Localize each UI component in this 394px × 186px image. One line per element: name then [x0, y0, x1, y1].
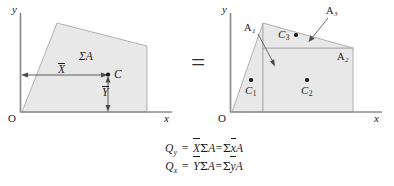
- centroid-label: C: [114, 69, 122, 81]
- area-a3-label: A3: [326, 6, 337, 18]
- qy-term1-sigma: Σ: [200, 141, 208, 155]
- left-diagram: y x O ΣA C X Y: [0, 0, 186, 138]
- xbar-symbol: X: [58, 63, 65, 76]
- a3-leader-line: [312, 18, 328, 38]
- qx-term1-sigma: Σ: [200, 159, 208, 173]
- area-a1-shape: [232, 23, 263, 112]
- right-diagram: y x O A1 A2 A3 C1 C2 C3: [212, 0, 394, 138]
- composite-area-shape: [22, 23, 147, 112]
- figure-page: y x O ΣA C X Y =: [0, 0, 394, 186]
- qx-term1-bar: Y: [193, 156, 199, 175]
- right-y-axis-label: y: [222, 4, 227, 15]
- qx-term2-bar: y: [231, 156, 236, 175]
- left-origin-label: O: [8, 113, 16, 124]
- qy-rhs: XΣA=ΣxA: [193, 142, 243, 154]
- centroid-c1-subscript: 1: [252, 89, 256, 98]
- area-a1-subscript: 1: [252, 27, 256, 35]
- left-diagram-canvas: [0, 0, 186, 138]
- qy-equals: =: [177, 139, 193, 157]
- centroid-c2-label: C2: [301, 85, 312, 98]
- xbar-label: X: [58, 63, 65, 76]
- area-a3-symbol: A: [326, 5, 334, 16]
- qx-rhs: YΣA=ΣyA: [193, 160, 242, 172]
- centroid-c3-point: [294, 33, 298, 37]
- right-x-axis-label: x: [374, 113, 379, 124]
- ybar-label: Y: [102, 86, 108, 99]
- equation-qx: Qx=YΣA=ΣyA: [0, 156, 394, 174]
- left-x-axis-label: x: [164, 113, 169, 124]
- area-a1-label: A1: [244, 23, 255, 35]
- area-a2-label: A2: [337, 52, 348, 64]
- centroid-c3-label: C3: [278, 29, 289, 42]
- equals-sign: =: [186, 50, 210, 76]
- total-area-label: ΣA: [79, 51, 93, 63]
- qy-term2-bar: x: [231, 138, 236, 157]
- area-a2-symbol: A: [337, 51, 345, 62]
- qx-equals: =: [177, 157, 193, 175]
- qy-symbol: Q: [165, 142, 173, 154]
- centroid-c1-label: C1: [245, 85, 256, 98]
- left-y-axis-label: y: [12, 4, 17, 15]
- equation-block: Qy=XΣA=ΣxA Qx=YΣA=ΣyA: [0, 138, 394, 174]
- qy-mid-equals: =: [215, 142, 223, 154]
- qy-term1-bar: X: [193, 138, 200, 157]
- centroid-c2-point: [305, 78, 309, 82]
- ybar-symbol: Y: [102, 86, 108, 99]
- area-a3-subscript: 3: [334, 10, 338, 18]
- centroid-c1-point: [249, 78, 253, 82]
- right-origin-label: O: [218, 113, 226, 124]
- right-diagram-canvas: [212, 0, 394, 138]
- equation-qy: Qy=XΣA=ΣxA: [0, 138, 394, 156]
- area-a3-shape: [263, 23, 353, 48]
- qy-term2-area: A: [236, 142, 243, 154]
- qx-symbol: Q: [165, 160, 173, 172]
- qx-term2-sigma: Σ: [222, 159, 230, 173]
- area-a1-symbol: A: [244, 22, 252, 33]
- xbar-left-arrowhead: [21, 73, 28, 78]
- qy-term2-sigma: Σ: [223, 141, 231, 155]
- centroid-c3-subscript: 3: [285, 33, 289, 42]
- centroid-c2-subscript: 2: [308, 89, 312, 98]
- qx-lhs: Qx: [151, 157, 177, 179]
- qx-term2-area: A: [236, 160, 243, 172]
- qx-term1-area: A: [208, 160, 215, 172]
- area-a2-subscript: 2: [345, 56, 349, 64]
